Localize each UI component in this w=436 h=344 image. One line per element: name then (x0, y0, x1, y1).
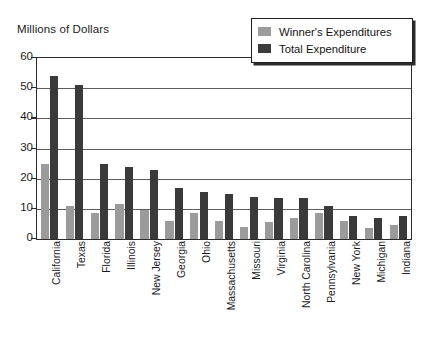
bar (340, 221, 348, 239)
bar (215, 221, 223, 239)
bar (41, 164, 49, 239)
bar (365, 228, 373, 239)
x-axis-category-label: California (52, 241, 62, 285)
x-axis-category-label: New Jersey (152, 241, 162, 295)
bar (299, 198, 307, 239)
legend-item: Total Expenditure (258, 40, 406, 57)
bar (66, 206, 74, 239)
chart-legend: Winner's Expenditures Total Expenditure (251, 18, 413, 63)
bar (150, 170, 158, 239)
x-axis-category-label: Indiana (402, 241, 412, 275)
bar-group (62, 58, 87, 239)
bar (390, 225, 398, 239)
bar (315, 213, 323, 239)
x-axis-category-label: Illinois (127, 241, 137, 270)
x-axis-category-label: Pennsylvania (327, 241, 337, 303)
legend-swatch-total-icon (258, 44, 271, 53)
y-axis-tick-label: 20 (7, 172, 33, 184)
legend-label: Total Expenditure (279, 43, 366, 55)
y-axis-tick-label: 30 (7, 142, 33, 154)
bar (140, 210, 148, 239)
bar (125, 167, 133, 239)
bar (200, 192, 208, 239)
bar (190, 213, 198, 239)
bar (399, 216, 407, 239)
y-axis-title: Millions of Dollars (17, 23, 109, 35)
x-axis-category-label: Virginia (277, 241, 287, 275)
x-axis-category-label: Massachusetts (227, 241, 237, 310)
bar (290, 218, 298, 239)
bar (240, 227, 248, 239)
bar (374, 218, 382, 239)
bar (115, 204, 123, 239)
bar-group (87, 58, 112, 239)
bar-group (311, 58, 336, 239)
bar-group (187, 58, 212, 239)
y-axis-tick-label: 40 (7, 111, 33, 123)
bar-group (386, 58, 411, 239)
x-axis-category-label: Missouri (252, 241, 262, 280)
bar-group (212, 58, 237, 239)
bar-group (336, 58, 361, 239)
y-axis-tick-label: 50 (7, 81, 33, 93)
x-axis-category-label: New York (352, 241, 362, 285)
bar (50, 76, 58, 239)
y-axis-tick-label: 10 (7, 202, 33, 214)
bar-group (261, 58, 286, 239)
bar-group (137, 58, 162, 239)
bar-group (162, 58, 187, 239)
legend-item: Winner's Expenditures (258, 23, 406, 40)
bar (75, 85, 83, 239)
bar-group (361, 58, 386, 239)
bar-group (286, 58, 311, 239)
bar-chart: Millions of Dollars 0102030405060 Califo… (0, 0, 436, 344)
plot-area (36, 57, 412, 240)
x-axis-category-label: Ohio (202, 241, 212, 263)
y-axis-tick-label: 0 (7, 232, 33, 244)
y-axis-tick-label: 60 (7, 51, 33, 63)
bar (324, 206, 332, 239)
y-axis-ticks: 0102030405060 (0, 57, 33, 240)
legend-swatch-winner-icon (258, 27, 271, 36)
x-axis-category-label: Texas (77, 241, 87, 268)
bar (349, 216, 357, 239)
x-axis-category-label: North Carolina (302, 241, 312, 308)
bar (175, 188, 183, 239)
bar (100, 164, 108, 239)
x-axis-category-label: Michigan (377, 241, 387, 283)
bar (165, 221, 173, 239)
bar (265, 222, 273, 239)
x-axis-category-labels: CaliforniaTexasFloridaIllinoisNew Jersey… (36, 241, 412, 341)
bar-group (112, 58, 137, 239)
bar (225, 194, 233, 239)
bar (274, 198, 282, 239)
x-axis-category-label: Florida (102, 241, 112, 273)
x-axis-category-label: Georgia (177, 241, 187, 278)
bar-group (37, 58, 62, 239)
bar-group (236, 58, 261, 239)
bar (91, 213, 99, 239)
bar (250, 197, 258, 239)
legend-label: Winner's Expenditures (279, 26, 392, 38)
